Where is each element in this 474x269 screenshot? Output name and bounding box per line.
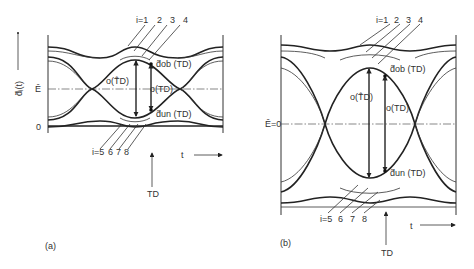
panel-b-label-3: 3 [406, 15, 411, 25]
panel-a-label-i5: i=5 [92, 147, 104, 157]
panel-a-time-label: t [181, 150, 184, 160]
panel-a-label-8: 8 [124, 147, 129, 157]
panel-b-eye-diagram: i=1 2 3 4 i=5 6 7 8 d̃ob (TD) d̃un (TD) … [265, 15, 456, 258]
panel-a-label-4: 4 [183, 15, 188, 25]
panel-a-zero-label: 0 [36, 122, 41, 132]
panel-b-top-leaders [360, 24, 420, 64]
panel-a-label-6: 6 [108, 147, 113, 157]
panel-a-max-opening-label: o(T̂D) [106, 76, 129, 86]
panel-a-caption: (a) [45, 241, 56, 251]
panel-a-sample-time-label: TD [147, 189, 159, 199]
panel-a-label-i1: i=1 [136, 15, 148, 25]
panel-a-lower-marker [149, 108, 153, 112]
panel-b-lower-marker [383, 169, 387, 173]
panel-b-label-6: 6 [338, 214, 343, 224]
panel-a-e-level-label: Ê [35, 84, 41, 94]
panel-a-upper-marker [149, 62, 153, 66]
panel-b-e-level-label: Ê=0 [265, 119, 281, 129]
panel-b-caption: (b) [280, 238, 291, 248]
panel-a-opening-label: o(TD) [150, 84, 173, 94]
panel-a-lower-marker-label: d̃un (TD) [156, 109, 192, 119]
panel-a-bottom-leaders [100, 124, 146, 149]
panel-a-eye-diagram: i=1 2 3 4 i=5 6 7 8 d̃ob (TD) d̃un (TD) … [14, 15, 223, 251]
panel-b-label-4: 4 [418, 15, 423, 25]
panel-b-sample-time-label: TD [381, 248, 393, 258]
panel-a-upper-marker-label: d̃ob (TD) [156, 59, 192, 69]
panel-a-label-2: 2 [157, 15, 162, 25]
panel-b-lower-marker-label: d̃un (TD) [390, 168, 426, 178]
panel-b-opening-label: o(TD) [386, 103, 409, 113]
panel-b-bottom-leaders [328, 185, 380, 213]
panel-a-top-leaders [128, 25, 180, 60]
eye-diagram-figure: i=1 2 3 4 i=5 6 7 8 d̃ob (TD) d̃un (TD) … [0, 0, 474, 269]
panel-b-upper-marker [383, 74, 387, 78]
panel-b-upper-marker-label: d̃ob (TD) [390, 64, 426, 74]
panel-b-max-opening-label: o(T̂D) [350, 92, 373, 102]
panel-b-time-label: t [410, 221, 413, 231]
panel-b-label-i1: i=1 [376, 15, 388, 25]
panel-a-y-axis-label: d̃ᵢ(t) [14, 81, 24, 96]
panel-a-label-3: 3 [170, 15, 175, 25]
panel-b-label-8: 8 [362, 214, 367, 224]
panel-b-label-7: 7 [350, 214, 355, 224]
panel-a-label-7: 7 [116, 147, 121, 157]
panel-b-label-i5: i=5 [320, 214, 332, 224]
panel-b-label-2: 2 [394, 15, 399, 25]
